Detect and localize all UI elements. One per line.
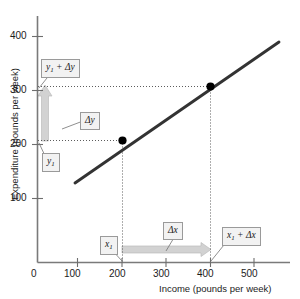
x-tick-label-500: 500 bbox=[241, 268, 258, 279]
chart-figure: 400 300 200 100 0 100 200 300 400 500 In… bbox=[0, 0, 300, 299]
delta-y-arrow bbox=[38, 85, 52, 141]
label-leader-lines bbox=[39, 78, 228, 261]
label-x1-plus-delta-x: x1 + Δx bbox=[222, 227, 261, 246]
y-tick-label-400: 400 bbox=[10, 30, 27, 41]
data-point-1 bbox=[118, 136, 126, 144]
label-y1: y1 bbox=[42, 153, 60, 172]
label-x1-plus-dx-tail: + Δx bbox=[235, 230, 256, 240]
guide-lines bbox=[38, 87, 211, 263]
label-delta-x: Δx bbox=[163, 222, 183, 240]
chart-canvas bbox=[0, 0, 300, 299]
x-tick-label-200: 200 bbox=[109, 268, 126, 279]
label-x1: x1 bbox=[100, 236, 118, 255]
x-tick-label-100: 100 bbox=[64, 268, 81, 279]
consumption-function-line bbox=[75, 42, 279, 183]
label-y1-plus-delta-y: y1 + Δy bbox=[41, 59, 80, 78]
data-point-2 bbox=[206, 82, 214, 90]
x-tick-label-400: 400 bbox=[197, 268, 214, 279]
label-delta-y: Δy bbox=[80, 112, 100, 130]
label-x1-sub: 1 bbox=[109, 243, 113, 251]
y-axis-title: Expenditure (pounds per week) bbox=[9, 68, 20, 200]
x-tick-label-300: 300 bbox=[153, 268, 170, 279]
label-y1-sub: 1 bbox=[51, 160, 55, 168]
label-y1-plus-dy-tail: + Δy bbox=[54, 62, 75, 72]
x-tick-label-0: 0 bbox=[31, 268, 37, 279]
x-axis-title: Income (pounds per week) bbox=[159, 283, 271, 294]
